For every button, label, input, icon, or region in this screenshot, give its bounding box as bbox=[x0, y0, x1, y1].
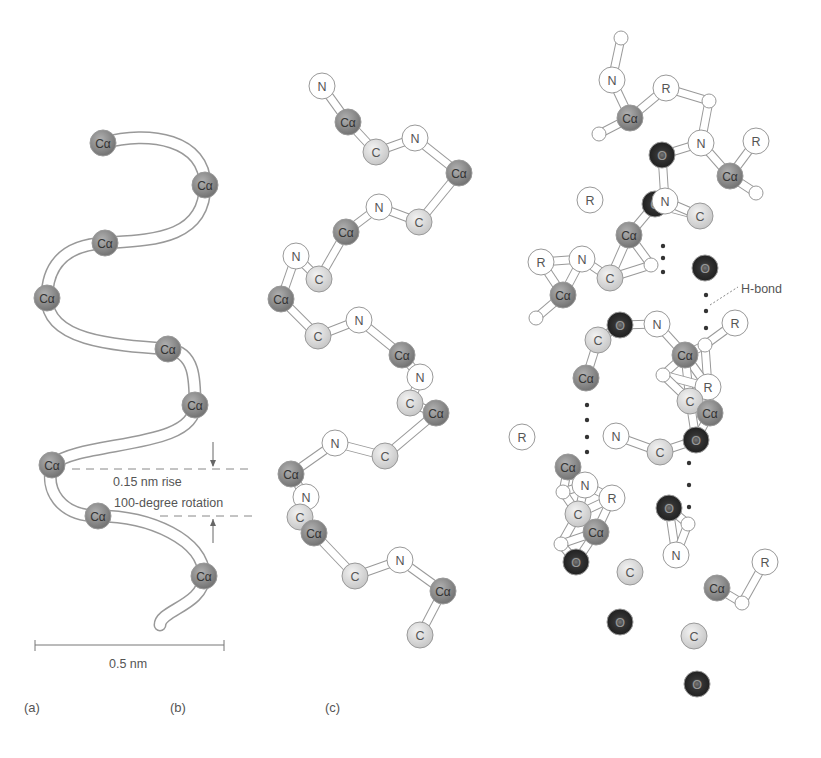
r-group-atom: R bbox=[743, 128, 769, 154]
hydrogen-atom bbox=[698, 338, 712, 352]
nitrogen-atom: N bbox=[366, 194, 392, 220]
svg-text:Cα: Cα bbox=[160, 343, 176, 357]
carbon-atom: C bbox=[687, 203, 713, 229]
svg-text:C: C bbox=[415, 629, 424, 643]
calpha-atom: Cα bbox=[39, 452, 65, 478]
svg-text:O: O bbox=[691, 434, 701, 448]
svg-text:Cα: Cα bbox=[44, 459, 60, 473]
svg-text:C: C bbox=[405, 397, 414, 411]
svg-text:O: O bbox=[615, 319, 625, 333]
nitrogen-atom: N bbox=[309, 73, 335, 99]
helix-ribbon-inner bbox=[47, 138, 205, 625]
svg-text:N: N bbox=[301, 491, 310, 505]
nitrogen-atom: N bbox=[644, 311, 670, 337]
svg-text:N: N bbox=[611, 430, 620, 444]
r-group-atom: R bbox=[509, 424, 535, 450]
nitrogen-atom: N bbox=[603, 423, 629, 449]
calpha-atom: Cα bbox=[335, 109, 361, 135]
nitrogen-atom: N bbox=[387, 547, 413, 573]
svg-text:Cα: Cα bbox=[560, 461, 576, 475]
carbon-atom: C bbox=[372, 443, 398, 469]
oxygen-atom: O bbox=[649, 142, 675, 168]
r-group-atom: R bbox=[653, 75, 679, 101]
calpha-atom: Cα bbox=[34, 285, 60, 311]
svg-text:Cα: Cα bbox=[340, 116, 356, 130]
svg-text:C: C bbox=[625, 566, 634, 580]
svg-text:C: C bbox=[655, 446, 664, 460]
nitrogen-atom: N bbox=[572, 472, 598, 498]
hydrogen-atom bbox=[592, 127, 606, 141]
svg-text:Cα: Cα bbox=[578, 372, 594, 386]
svg-text:O: O bbox=[657, 149, 667, 163]
svg-text:R: R bbox=[751, 135, 760, 149]
calpha-atom: Cα bbox=[583, 519, 609, 545]
hydrogen-atom bbox=[749, 186, 763, 200]
hbond-label: H-bond bbox=[741, 282, 782, 296]
carbon-atom: C bbox=[397, 390, 423, 416]
svg-text:Cα: Cα bbox=[39, 292, 55, 306]
svg-text:C: C bbox=[605, 272, 614, 286]
nitrogen-atom: N bbox=[283, 243, 309, 269]
calpha-atom: Cα bbox=[182, 392, 208, 418]
svg-text:O: O bbox=[700, 262, 710, 276]
hbond-leader-line bbox=[710, 287, 738, 305]
panel-b: NCαCNCαNCCαNCCαCNCαNCCαNCCαNCCαCNCαC bbox=[268, 73, 472, 648]
calpha-atom: Cα bbox=[697, 400, 723, 426]
svg-text:N: N bbox=[671, 549, 680, 563]
rotation-label: 100-degree rotation bbox=[114, 496, 223, 510]
svg-text:Cα: Cα bbox=[702, 407, 718, 421]
calpha-atom: Cα bbox=[191, 563, 217, 589]
hydrogen-atom bbox=[735, 596, 749, 610]
svg-text:N: N bbox=[415, 371, 424, 385]
nitrogen-atom: N bbox=[569, 246, 595, 272]
svg-text:C: C bbox=[380, 450, 389, 464]
panel-c: NRCαONRCαONCRCαNCORCαONCRCαCαRCCαORNCCαN… bbox=[509, 31, 782, 697]
svg-text:Cα: Cα bbox=[187, 399, 203, 413]
r-group-atom: R bbox=[722, 310, 748, 336]
svg-text:C: C bbox=[350, 570, 359, 584]
carbon-atom: C bbox=[305, 323, 331, 349]
carbon-atom: C bbox=[647, 439, 673, 465]
svg-text:N: N bbox=[607, 74, 616, 88]
panel-label-c: (c) bbox=[325, 700, 340, 715]
svg-text:N: N bbox=[652, 318, 661, 332]
svg-text:Cα: Cα bbox=[709, 582, 725, 596]
calpha-atom: Cα bbox=[672, 342, 698, 368]
svg-text:Cα: Cα bbox=[338, 226, 354, 240]
svg-text:N: N bbox=[374, 201, 383, 215]
svg-text:C: C bbox=[314, 273, 323, 287]
svg-text:R: R bbox=[760, 556, 769, 570]
svg-text:C: C bbox=[573, 508, 582, 522]
svg-text:Cα: Cα bbox=[306, 527, 322, 541]
svg-text:Cα: Cα bbox=[451, 167, 467, 181]
nitrogen-atom: N bbox=[652, 188, 678, 214]
oxygen-atom: O bbox=[683, 427, 709, 453]
rise-label: 0.15 nm rise bbox=[113, 475, 182, 489]
svg-text:C: C bbox=[313, 330, 322, 344]
svg-text:Cα: Cα bbox=[622, 112, 638, 126]
svg-text:C: C bbox=[689, 630, 698, 644]
scale-label: 0.5 nm bbox=[109, 657, 147, 671]
svg-text:Cα: Cα bbox=[588, 526, 604, 540]
hydrogen-atom bbox=[702, 94, 716, 108]
oxygen-atom: O bbox=[692, 255, 718, 281]
oxygen-atom: O bbox=[684, 671, 710, 697]
svg-text:Cα: Cα bbox=[435, 585, 451, 599]
svg-text:Cα: Cα bbox=[428, 407, 444, 421]
carbon-atom: C bbox=[342, 563, 368, 589]
svg-text:Cα: Cα bbox=[555, 289, 571, 303]
nitrogen-atom: N bbox=[663, 542, 689, 568]
carbon-atom: C bbox=[406, 209, 432, 235]
calpha-atom: Cα bbox=[192, 172, 218, 198]
svg-text:C: C bbox=[685, 395, 694, 409]
svg-text:Cα: Cα bbox=[95, 137, 111, 151]
svg-text:N: N bbox=[291, 250, 300, 264]
svg-text:C: C bbox=[593, 334, 602, 348]
hydrogen-atom bbox=[656, 368, 670, 382]
svg-text:N: N bbox=[317, 80, 326, 94]
svg-text:N: N bbox=[354, 314, 363, 328]
calpha-atom: Cα bbox=[616, 222, 642, 248]
calpha-atom: Cα bbox=[446, 160, 472, 186]
svg-text:Cα: Cα bbox=[97, 237, 113, 251]
calpha-atom: Cα bbox=[278, 461, 304, 487]
